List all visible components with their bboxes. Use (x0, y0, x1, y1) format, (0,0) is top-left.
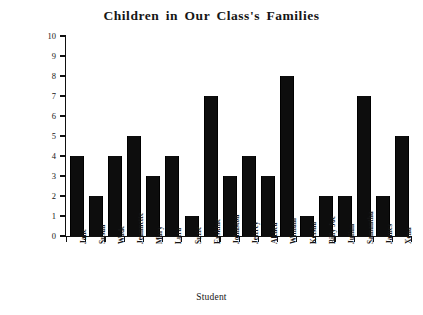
y-tick: 3 (0, 171, 66, 181)
bar (204, 96, 218, 236)
y-tick-label: 4 (52, 151, 56, 161)
y-tick-label: 5 (52, 131, 56, 141)
bar-chart: Children in Our Class's Families Number … (0, 0, 423, 315)
y-tick: 8 (0, 71, 66, 81)
y-tick-label: 10 (48, 31, 57, 41)
y-tick-label: 9 (52, 51, 56, 61)
x-tick-label: Susan (98, 225, 107, 244)
bar (280, 76, 294, 236)
x-tick-label: Jane (79, 229, 88, 244)
y-tick: 0 (0, 231, 66, 241)
x-axis-title: Student (0, 292, 423, 302)
y-tick: 1 (0, 211, 66, 221)
x-tick-label: Wade (117, 226, 126, 244)
y-tick: 9 (0, 51, 66, 61)
y-tick-label: 3 (52, 171, 56, 181)
plot-area (66, 36, 411, 236)
bar (395, 136, 409, 236)
y-tick: 6 (0, 111, 66, 121)
x-tick-mark (66, 237, 67, 242)
x-tick-label: William (289, 218, 298, 244)
bar (108, 156, 122, 236)
y-tick-mark (60, 215, 65, 216)
x-tick-label: Jeannette (136, 213, 145, 244)
y-tick-label: 2 (52, 191, 56, 201)
x-tick-label: Johnston (232, 214, 241, 244)
y-tick-mark (60, 55, 65, 56)
y-tick: 10 (0, 31, 66, 41)
y-tick-mark (60, 155, 65, 156)
y-tick: 7 (0, 91, 66, 101)
y-tick-mark (60, 75, 65, 76)
y-tick-label: 7 (52, 91, 56, 101)
bar (165, 156, 179, 236)
x-tick-label: Samantha (366, 211, 375, 244)
y-tick-mark (60, 35, 65, 36)
x-tick-label: Suzie (194, 227, 203, 244)
x-tick-label: Keisha (309, 222, 318, 244)
bar (70, 156, 84, 236)
y-tick-mark (60, 235, 65, 236)
y-tick-mark (60, 195, 65, 196)
y-tick: 2 (0, 191, 66, 201)
x-tick-label: Lura (174, 228, 183, 244)
x-tick-label: Mary (155, 226, 164, 244)
x-tick-label: Billy Joe (328, 216, 337, 244)
y-tick-mark (60, 115, 65, 116)
chart-title: Children in Our Class's Families (0, 8, 423, 24)
x-tick-label: Erskine (213, 219, 222, 244)
y-tick-label: 6 (52, 111, 56, 121)
y-tick-mark (60, 135, 65, 136)
y-tick-mark (60, 175, 65, 176)
y-tick-label: 1 (52, 211, 56, 221)
x-tick-label: Jeffrey (251, 221, 260, 244)
y-tick-label: 8 (52, 71, 56, 81)
x-tick-label: Xena (404, 227, 413, 244)
x-tick-label: Althea (270, 222, 279, 244)
x-tick-label: James (385, 224, 394, 244)
x-tick-label: Julian (347, 224, 356, 244)
y-tick: 4 (0, 151, 66, 161)
y-tick: 5 (0, 131, 66, 141)
y-tick-mark (60, 95, 65, 96)
y-tick-label: 0 (52, 231, 56, 241)
